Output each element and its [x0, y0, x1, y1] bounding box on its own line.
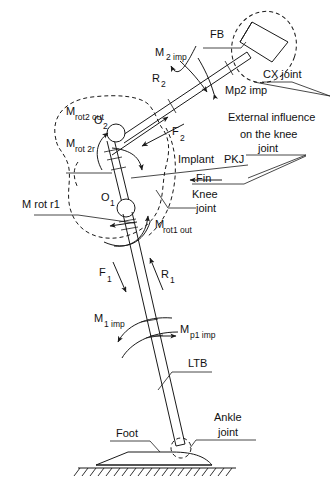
label-external-influence: External influence on the knee joint [228, 111, 315, 154]
label-mp1-imp: M p1 imp [180, 323, 216, 340]
label-o2: O 2 [94, 114, 108, 131]
label-mp2-imp: Mp2 imp [225, 84, 267, 96]
svg-text:2: 2 [180, 133, 185, 143]
svg-text:M: M [66, 137, 75, 149]
label-fin: Fin [196, 172, 211, 184]
label-r1: R 1 [161, 268, 175, 285]
label-f1: F 1 [99, 266, 112, 284]
svg-text:joint: joint [217, 426, 238, 438]
svg-text:2 imp: 2 imp [166, 52, 187, 62]
svg-text:F: F [172, 125, 179, 137]
svg-text:p1 imp: p1 imp [190, 330, 216, 340]
svg-text:1 imp: 1 imp [104, 319, 125, 329]
label-pkj: PKJ [224, 153, 244, 165]
force-arrow-f1 [113, 262, 126, 292]
ground-hatching [74, 468, 236, 476]
svg-text:O: O [101, 191, 110, 203]
svg-text:O: O [94, 114, 103, 126]
svg-text:rot1 out: rot1 out [163, 225, 192, 235]
svg-text:2: 2 [103, 121, 108, 131]
svg-text:Ankle: Ankle [214, 411, 242, 423]
leader-lines [34, 42, 330, 452]
ankle-joint [171, 438, 191, 458]
label-joint: joint [195, 202, 216, 214]
svg-text:1: 1 [107, 274, 112, 284]
svg-text:on the knee: on the knee [240, 128, 298, 140]
svg-text:1: 1 [170, 275, 175, 285]
svg-text:F: F [99, 266, 106, 278]
svg-text:M: M [94, 312, 103, 324]
svg-text:M: M [155, 46, 164, 58]
svg-text:R: R [161, 268, 169, 280]
svg-text:R: R [152, 72, 160, 84]
label-m-rot-2r: M rot 2r [66, 137, 95, 154]
foot-base [96, 452, 212, 465]
svg-text:1: 1 [110, 198, 115, 208]
label-f2: F 2 [172, 125, 185, 143]
label-ankle-joint: Ankle joint [214, 411, 242, 438]
tibia-rod [123, 212, 185, 446]
svg-text:External influence: External influence [228, 111, 315, 123]
label-foot: Foot [116, 427, 138, 439]
biomechanics-diagram: FB CX joint Mp2 imp M 2 imp R 2 M rot2 o… [0, 0, 333, 482]
svg-text:2: 2 [161, 79, 166, 89]
label-fb: FB [210, 28, 224, 40]
svg-text:rot 2r: rot 2r [75, 144, 95, 154]
cx-joint-block [240, 22, 288, 62]
ball-joint-o2 [107, 124, 125, 142]
label-m-rot1-out: M rot1 out [155, 218, 192, 235]
moment-arc-mp2imp [180, 58, 214, 94]
label-cx-joint: CX joint [263, 68, 302, 80]
svg-text:joint: joint [257, 142, 278, 154]
label-r2: R 2 [152, 72, 166, 89]
label-o1: O 1 [101, 191, 115, 208]
label-implant: Implant [178, 153, 214, 165]
label-knee: Knee [192, 188, 218, 200]
diagram-canvas: FB CX joint Mp2 imp M 2 imp R 2 M rot2 o… [0, 0, 333, 482]
knee-region-outline [55, 96, 176, 238]
label-m1-imp: M 1 imp [94, 312, 125, 329]
label-m-rot-r1: M rot r1 [22, 198, 60, 210]
svg-text:M: M [66, 105, 75, 117]
label-m2-imp: M 2 imp [155, 46, 187, 62]
svg-text:M: M [180, 323, 189, 335]
label-ltb: LTB [188, 357, 207, 369]
